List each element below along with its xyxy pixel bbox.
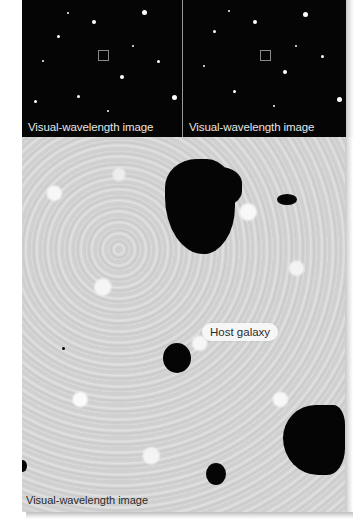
star [303, 12, 308, 17]
bottom-caption: Visual-wavelength image [26, 494, 148, 506]
star [228, 10, 230, 12]
star [203, 65, 205, 67]
star [120, 75, 124, 79]
star [142, 10, 147, 15]
star [273, 105, 275, 107]
star [107, 110, 109, 112]
bottom-panel-shadow-right [345, 137, 353, 515]
star [253, 20, 257, 24]
star [283, 70, 287, 74]
star [321, 55, 324, 58]
star [67, 12, 69, 14]
host-galaxy-label: Host galaxy [202, 323, 278, 341]
star [34, 100, 37, 103]
target-marker-square [98, 50, 109, 61]
top-right-caption: Visual-wavelength image [189, 121, 314, 133]
top-panels-shadow [346, 0, 354, 140]
star [295, 45, 297, 47]
star [337, 97, 342, 102]
star [213, 30, 216, 33]
star [233, 90, 236, 93]
small-star-blob [163, 343, 191, 373]
star [132, 45, 134, 47]
bright-star-blob [187, 167, 242, 207]
small-star-blob [277, 194, 297, 205]
star [77, 95, 80, 98]
star [57, 35, 60, 38]
star [157, 60, 160, 63]
top-right-star-field-image: Visual-wavelength image [183, 0, 346, 137]
bottom-host-galaxy-image: Host galaxy Visual-wavelength image [22, 137, 345, 512]
top-left-star-field-image: Visual-wavelength image [22, 0, 182, 137]
star [42, 60, 44, 62]
small-star-blob [206, 463, 226, 485]
top-left-caption: Visual-wavelength image [28, 121, 153, 133]
small-star-blob [62, 347, 65, 350]
star [172, 95, 177, 100]
star [92, 20, 96, 24]
target-marker-square [260, 50, 271, 61]
bottom-panel-shadow-bottom [26, 512, 353, 519]
